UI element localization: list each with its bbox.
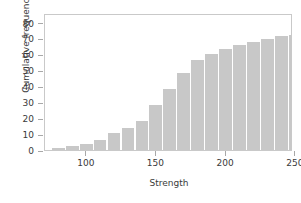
bar [94,140,107,150]
x-tick-label: 200 [205,157,245,169]
bar [247,42,260,150]
x-tick-mark [155,151,156,156]
bar [122,128,135,150]
x-tick-mark [85,151,86,156]
bar [136,121,149,150]
bar-series [45,15,291,150]
x-axis-label: Strength [44,178,294,188]
y-tick-mark [38,71,43,72]
y-tick-label: 30 [0,97,34,109]
x-tick-mark [225,151,226,156]
bar [205,54,218,150]
x-tick-label: 100 [66,157,106,169]
x-tick-label: 150 [135,157,175,169]
bar [289,35,292,150]
cumulative-frequency-chart: Cumulative frequency 01020304050607080 1… [0,0,301,203]
bar [80,144,93,150]
y-tick-label: 50 [0,65,34,77]
y-tick-mark [38,23,43,24]
bar [66,146,79,150]
y-tick-mark [38,151,43,152]
y-tick-label: 10 [0,129,34,141]
y-tick-mark [38,87,43,88]
x-tick-label: 250 [275,157,301,169]
bar [191,60,204,150]
bar [52,148,65,150]
bar [233,45,246,150]
plot-area [44,14,292,151]
y-tick-label: 70 [0,33,34,45]
y-tick-mark [38,103,43,104]
bar [219,49,232,150]
y-tick-mark [38,55,43,56]
y-tick-label: 20 [0,113,34,125]
y-tick-mark [38,119,43,120]
y-tick-label: 40 [0,81,34,93]
y-tick-label: 60 [0,49,34,61]
y-tick-label: 80 [0,18,34,30]
bar [275,36,288,150]
bar [149,105,162,150]
x-tick-mark [294,151,295,156]
bar [261,39,274,151]
y-tick-mark [38,39,43,40]
bar [163,89,176,150]
bar [177,73,190,150]
y-tick-mark [38,135,43,136]
bar [108,133,121,150]
y-tick-label: 0 [0,145,34,157]
